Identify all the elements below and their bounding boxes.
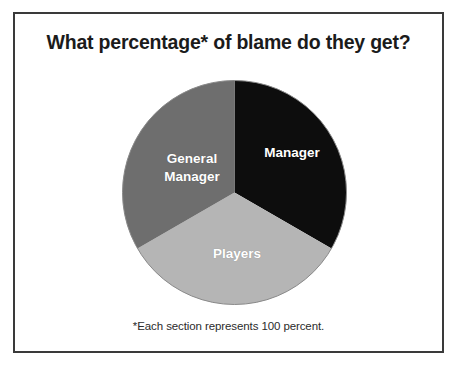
pie-chart: Manager General Manager Players bbox=[122, 80, 347, 305]
pie-chart-svg bbox=[122, 80, 347, 305]
pie-label-general-manager-line1: General bbox=[167, 151, 217, 166]
pie-label-general-manager: General Manager bbox=[122, 150, 262, 185]
page-title: What percentage* of blame do they get? bbox=[15, 32, 442, 53]
pie-label-general-manager-line2: Manager bbox=[164, 169, 220, 184]
figure-frame: What percentage* of blame do they get? M… bbox=[13, 12, 444, 353]
chart-footnote: *Each section represents 100 percent. bbox=[15, 320, 442, 332]
pie-label-players: Players bbox=[177, 245, 297, 263]
